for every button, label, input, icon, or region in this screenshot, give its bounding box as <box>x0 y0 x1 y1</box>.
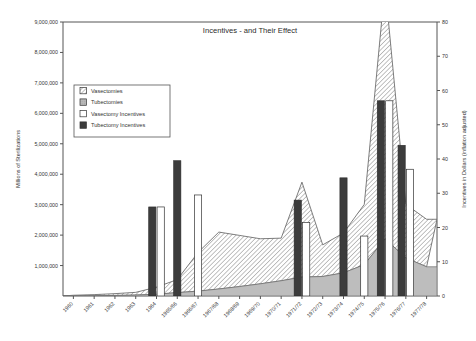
bar-vasectomy-incentive <box>194 195 201 296</box>
legend-swatch-solid-gray <box>80 99 86 105</box>
bar-vasectomy-incentive <box>361 236 368 296</box>
legend-label: Tubectomy Incentives <box>91 122 145 128</box>
bar-tubectomy-incentive <box>294 200 301 296</box>
legend-swatch-diagonal-hatch <box>80 87 86 93</box>
chart-container: Incentives - and Their Effect 9,000,0008… <box>0 0 476 341</box>
chart-legend: VasectomiesTubectomiesVasectomy Incentiv… <box>74 85 170 137</box>
y-tick-label-right: 30 <box>442 190 448 196</box>
legend-label: Vasectomy Incentives <box>91 111 145 117</box>
y-tick-label-left: 8,000,000 <box>34 49 58 55</box>
y-tick-label-left: 3,000,000 <box>34 202 58 208</box>
y-tick-label-right: 70 <box>442 53 448 59</box>
y-tick-label-left: 9,000,000 <box>34 19 58 25</box>
y-tick-label-left: 5,000,000 <box>34 141 58 147</box>
bar-tubectomy-incentive <box>398 145 405 296</box>
y-tick-label-right: 60 <box>442 88 448 94</box>
y-axis-title-left: Millions of Sterilizations <box>15 130 21 188</box>
y-tick-label-right: 40 <box>442 156 448 162</box>
y-tick-label-right: 80 <box>442 19 448 25</box>
y-tick-label-right: 0 <box>442 293 445 299</box>
chart-title: Incentives - and Their Effect <box>203 26 298 35</box>
incentives-and-their-effect-chart: Incentives - and Their Effect 9,000,0008… <box>0 0 476 341</box>
y-tick-label-left: 1,000,000 <box>34 263 58 269</box>
legend-swatch-dark <box>80 122 86 128</box>
legend-label: Tubectomies <box>91 99 123 105</box>
y-tick-label-right: 50 <box>442 122 448 128</box>
y-tick-label-left: 2,000,000 <box>34 232 58 238</box>
bar-vasectomy-incentive <box>386 101 393 296</box>
y-tick-label-right: 20 <box>442 225 448 231</box>
bar-vasectomy-incentive <box>303 222 310 296</box>
legend-label: Vasectomies <box>91 88 123 94</box>
bar-vasectomy-incentive <box>406 169 413 296</box>
y-axis-title-right: Incentives in Dollars (inflation adjuste… <box>461 110 467 207</box>
legend-swatch-white <box>80 110 86 116</box>
bar-tubectomy-incentive <box>149 207 156 296</box>
bar-tubectomy-incentive <box>377 101 384 296</box>
bar-vasectomy-incentive <box>157 207 164 296</box>
bar-tubectomy-incentive <box>174 161 181 296</box>
bar-tubectomy-incentive <box>340 178 347 296</box>
y-tick-label-right: 10 <box>442 259 448 265</box>
y-tick-label-left: 6,000,000 <box>34 110 58 116</box>
y-tick-label-left: 7,000,000 <box>34 80 58 86</box>
y-tick-label-left: 4,000,000 <box>34 171 58 177</box>
